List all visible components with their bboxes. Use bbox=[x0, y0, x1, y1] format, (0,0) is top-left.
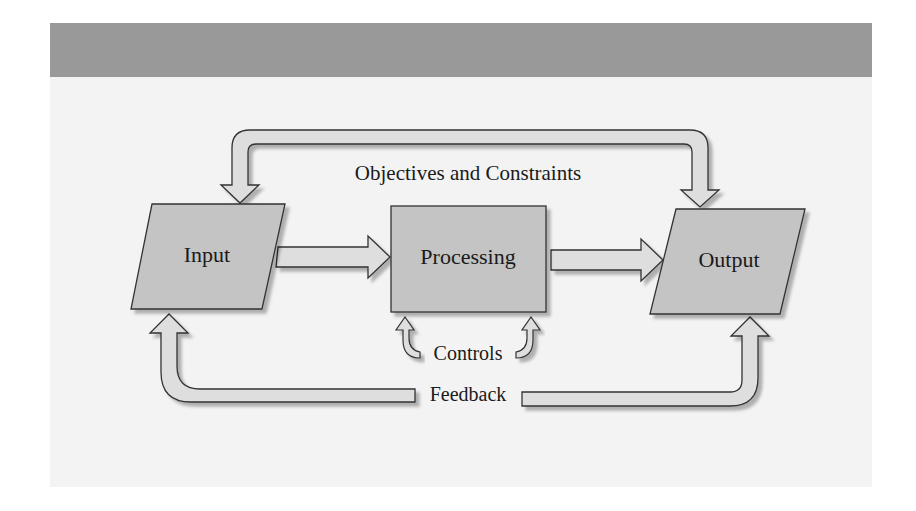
feedback-arrow-right bbox=[522, 317, 769, 406]
controls-arrow-left bbox=[396, 317, 420, 358]
processing-to-output-arrow bbox=[551, 239, 663, 281]
feedback-arrow bbox=[150, 314, 415, 402]
processing-label: Processing bbox=[420, 244, 515, 269]
input-to-processing-arrow bbox=[276, 236, 390, 278]
controls-arrow-right bbox=[516, 317, 540, 358]
output-label: Output bbox=[698, 247, 759, 272]
diagram-canvas: Input Processing Output Objectives and C… bbox=[0, 0, 916, 511]
feedback-label: Feedback bbox=[430, 383, 507, 405]
input-label: Input bbox=[184, 242, 230, 267]
controls-label: Controls bbox=[434, 342, 503, 364]
objectives-label: Objectives and Constraints bbox=[355, 161, 581, 185]
